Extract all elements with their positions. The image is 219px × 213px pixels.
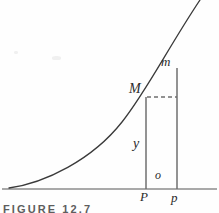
increasing-convex-curve	[9, 0, 200, 188]
label-foot-p: p	[171, 191, 178, 204]
label-increment-o: o	[155, 169, 161, 181]
label-foot-P: P	[140, 190, 148, 203]
figure-container: M m y o P p FIGURE 12.7	[0, 0, 219, 213]
label-point-M: M	[129, 82, 141, 96]
figure-caption: FIGURE 12.7	[3, 203, 92, 213]
label-point-m: m	[161, 55, 170, 68]
figure-drawing	[0, 0, 219, 213]
label-ordinate-y: y	[133, 137, 139, 151]
